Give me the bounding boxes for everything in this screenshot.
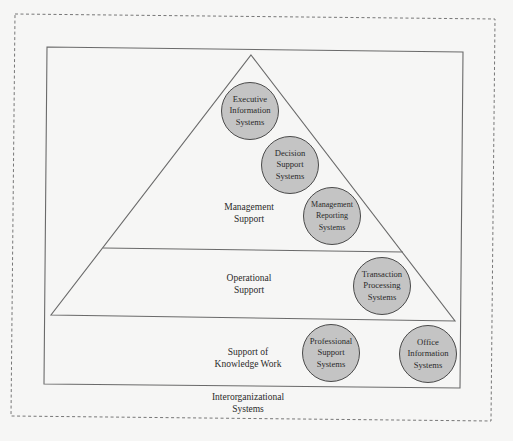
layer-label-operational-support: Operational Support <box>227 272 272 296</box>
node-label: Executive Information Systems <box>229 94 270 129</box>
node-professional-support-systems: Professional Support Systems <box>302 324 360 382</box>
node-executive-information-systems: Executive Information Systems <box>221 82 279 140</box>
node-label: Decision Support Systems <box>275 148 306 183</box>
node-label: Transaction Processing Systems <box>362 269 402 304</box>
node-management-reporting-systems: Management Reporting Systems <box>303 187 361 245</box>
node-decision-support-systems: Decision Support Systems <box>261 136 319 194</box>
layer-label-management-support: Management Support <box>224 201 274 225</box>
layer-label-knowledge-work: Support of Knowledge Work <box>215 346 282 370</box>
node-label: Management Reporting Systems <box>311 199 353 234</box>
node-label: Professional Support Systems <box>310 336 353 371</box>
layer-label-interorganizational-systems: Interorganizational Systems <box>212 391 284 415</box>
node-transaction-processing-systems: Transaction Processing Systems <box>353 257 411 315</box>
node-office-information-systems: Office Information Systems <box>399 325 457 383</box>
node-label: Office Information Systems <box>407 337 448 372</box>
pyramid-divider <box>103 248 403 252</box>
